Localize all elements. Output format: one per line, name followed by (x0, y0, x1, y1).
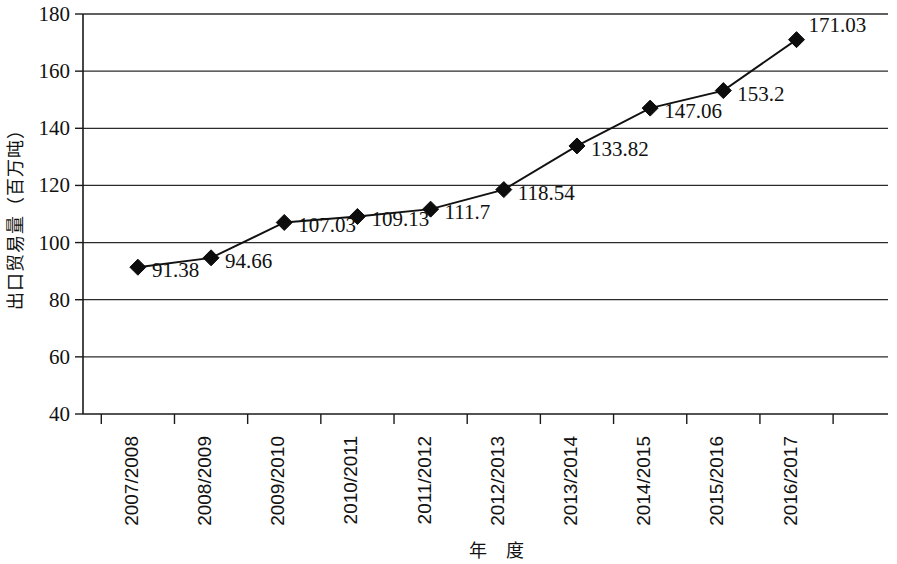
x-axis-tick-labels: 2007/20082008/20092009/20102010/20112011… (121, 436, 801, 526)
data-point-marker (276, 214, 292, 230)
y-tick-label: 140 (39, 116, 71, 140)
data-point-label: 118.54 (518, 181, 575, 205)
data-point-label: 171.03 (809, 13, 867, 37)
x-tick-label: 2010/2011 (340, 436, 361, 524)
data-point-marker (789, 32, 805, 48)
y-tick-label: 120 (39, 173, 71, 197)
data-point-label: 107.03 (298, 213, 356, 237)
data-point-label: 109.13 (371, 207, 429, 231)
line-chart: 406080100120140160180 2007/20082008/2009… (0, 0, 897, 564)
x-tick-label: 2011/2012 (414, 436, 435, 524)
y-tick-label: 100 (39, 231, 71, 255)
data-point-label: 133.82 (591, 137, 649, 161)
y-tick-label: 80 (49, 288, 70, 312)
x-tick-label: 2014/2015 (633, 436, 654, 526)
data-line (138, 40, 797, 268)
data-point-label: 147.06 (664, 99, 722, 123)
y-axis-title: 出口贸易量（百万吨） (6, 120, 26, 310)
data-point-marker (569, 138, 585, 154)
x-tick-label: 2015/2016 (706, 436, 727, 526)
data-point-labels: 91.3894.66107.03109.13111.7118.54133.821… (152, 13, 866, 283)
x-tick-label: 2009/2010 (267, 436, 288, 526)
x-tick-label: 2016/2017 (780, 436, 801, 526)
gridlines (83, 14, 888, 357)
data-point-marker (642, 100, 658, 116)
y-axis-ticks (75, 14, 83, 414)
x-tick-label: 2013/2014 (560, 436, 581, 526)
y-tick-label: 40 (49, 402, 70, 426)
x-tick-label: 2007/2008 (121, 436, 142, 526)
data-point-marker (203, 250, 219, 266)
data-point-marker (715, 83, 731, 99)
y-tick-label: 160 (39, 59, 71, 83)
data-point-label: 153.2 (737, 82, 784, 106)
x-axis-title: 年 度 (469, 541, 531, 561)
x-axis-ticks (101, 414, 833, 424)
y-tick-label: 60 (49, 345, 70, 369)
chart-container: 406080100120140160180 2007/20082008/2009… (0, 0, 897, 564)
data-point-label: 91.38 (152, 258, 199, 282)
data-point-label: 94.66 (225, 249, 272, 273)
data-markers (130, 32, 805, 276)
y-tick-label: 180 (39, 2, 71, 26)
data-point-marker (496, 182, 512, 198)
data-point-label: 111.7 (445, 200, 491, 224)
x-tick-label: 2012/2013 (487, 436, 508, 526)
y-axis-tick-labels: 406080100120140160180 (39, 2, 71, 426)
data-point-marker (130, 259, 146, 275)
x-tick-label: 2008/2009 (194, 436, 215, 526)
